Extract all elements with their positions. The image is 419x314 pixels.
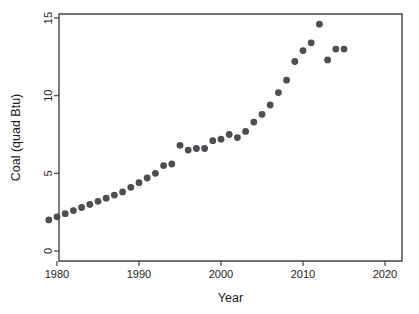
data-point: 2010: 12.9	[300, 47, 307, 54]
data-point: 1987: 3.6	[111, 192, 118, 199]
data-point: 1992: 5	[152, 170, 159, 177]
data-point: 1996: 6.5	[185, 147, 192, 154]
x-axis-title: Year	[218, 291, 243, 305]
data-point: 1983: 2.8	[78, 204, 85, 211]
data-point: 1999: 7.1	[209, 137, 216, 144]
x-tick-label: 1980	[45, 268, 69, 280]
data-point: 2005: 8.8	[259, 111, 266, 118]
data-point: 2013: 12.3	[324, 57, 331, 64]
chart-figure: 19801990200020102020051015 1979: 21980: …	[0, 0, 419, 314]
y-tick-label: 5	[42, 170, 54, 176]
data-point: 1979: 2	[45, 217, 52, 224]
data-point: 2015: 13	[341, 46, 348, 53]
data-point: 1981: 2.4	[62, 210, 69, 217]
data-point: 1994: 5.6	[168, 161, 175, 168]
data-point: 1988: 3.8	[119, 189, 126, 196]
data-point: 2008: 11	[283, 77, 290, 84]
x-tick-label: 1990	[127, 268, 151, 280]
data-point: 2007: 10.2	[275, 89, 282, 96]
data-point: 2014: 13	[332, 46, 339, 53]
data-point: 2001: 7.5	[226, 131, 233, 138]
y-axis-title: Coal (quad Btu)	[9, 94, 23, 182]
y-tick-label: 10	[42, 90, 54, 102]
data-point: 2000: 7.2	[218, 136, 225, 143]
data-point: 1993: 5.5	[160, 162, 167, 169]
data-point: 1998: 6.6	[201, 145, 208, 152]
data-point: 2012: 14.6	[316, 21, 323, 28]
x-tick-label: 2000	[209, 268, 233, 280]
data-point: 1991: 4.7	[144, 175, 151, 182]
y-tick-label: 15	[42, 12, 54, 24]
data-point: 1990: 4.4	[136, 179, 143, 186]
data-point: 1986: 3.4	[103, 195, 110, 202]
y-tick-label: 0	[42, 248, 54, 254]
x-tick-label: 2010	[291, 268, 315, 280]
data-point: 1997: 6.6	[193, 145, 200, 152]
data-point: 2003: 7.7	[242, 128, 249, 135]
data-point: 2006: 9.4	[267, 102, 274, 109]
data-point: 2004: 8.3	[250, 119, 257, 126]
data-point: 1995: 6.8	[177, 142, 184, 149]
data-point: 1989: 4.1	[127, 184, 134, 191]
data-point: 1982: 2.6	[70, 207, 77, 214]
x-tick-label: 2020	[373, 268, 397, 280]
data-point: 2002: 7.3	[234, 134, 241, 141]
data-point: 2011: 13.4	[308, 39, 315, 46]
data-point: 1980: 2.2	[54, 213, 61, 220]
data-point: 2009: 12.2	[291, 58, 298, 65]
data-point: 1984: 3	[86, 201, 93, 208]
data-point: 1985: 3.2	[95, 198, 102, 205]
data-points: 1979: 21980: 2.21981: 2.41982: 2.61983: …	[45, 21, 347, 224]
scatter-plot: 19801990200020102020051015 1979: 21980: …	[0, 0, 419, 314]
